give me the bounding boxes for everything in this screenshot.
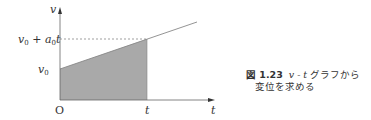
figure-caption: 図 1.23v - t グラフから 変位を求める	[246, 69, 360, 93]
vt-graph	[0, 0, 371, 120]
graph-name: v - t	[289, 69, 307, 80]
y-axis-arrow-icon	[58, 7, 62, 14]
v0-label: v0	[38, 64, 49, 77]
caption-line-2: 変位を求める	[246, 81, 360, 93]
v-axis-label: v	[50, 4, 56, 15]
caption-rest: グラフから	[310, 69, 360, 80]
t-tick-label: t	[145, 105, 149, 116]
v0-plus-a0t-label: v0 + a0t	[18, 34, 60, 47]
v0-sub: 0	[44, 69, 48, 77]
caption-line-1: 図 1.23v - t グラフから	[246, 69, 360, 81]
t-axis-label: t	[211, 105, 215, 116]
figure-number: 図 1.23	[246, 69, 283, 80]
x-axis-arrow-icon	[208, 98, 215, 102]
displacement-area	[60, 39, 147, 100]
t-part: t	[56, 33, 60, 46]
plus-sign: +	[29, 33, 45, 46]
origin-label: O	[55, 105, 64, 116]
